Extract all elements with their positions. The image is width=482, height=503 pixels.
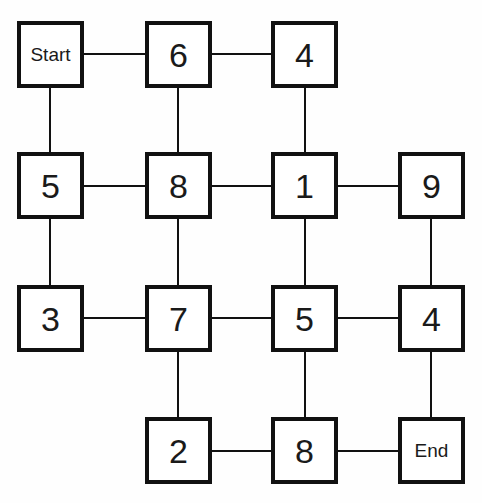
node-n-r2c1[interactable]: 5 <box>17 152 84 219</box>
node-n-r1c2[interactable]: 6 <box>145 21 212 88</box>
node-n-r2c2[interactable]: 8 <box>145 152 212 219</box>
node-label: 2 <box>169 434 188 468</box>
node-label: 6 <box>169 38 188 72</box>
node-label: 1 <box>295 169 314 203</box>
node-n-r3c4[interactable]: 4 <box>398 285 465 352</box>
grid-path-diagram: Start645819375428End <box>0 0 482 503</box>
node-label: 7 <box>169 302 188 336</box>
node-n-r4c4[interactable]: End <box>398 417 465 484</box>
node-n-r4c3[interactable]: 8 <box>271 417 338 484</box>
node-label: 5 <box>295 302 314 336</box>
node-n-r4c2[interactable]: 2 <box>145 417 212 484</box>
node-label: 5 <box>41 169 60 203</box>
node-label: Start <box>30 45 70 64</box>
node-n-r3c2[interactable]: 7 <box>145 285 212 352</box>
node-label: 3 <box>41 302 60 336</box>
node-label: 9 <box>422 169 441 203</box>
node-label: 8 <box>295 434 314 468</box>
node-n-r3c1[interactable]: 3 <box>17 285 84 352</box>
node-n-r1c1[interactable]: Start <box>17 21 84 88</box>
node-label: 4 <box>295 38 314 72</box>
node-n-r3c3[interactable]: 5 <box>271 285 338 352</box>
node-n-r2c4[interactable]: 9 <box>398 152 465 219</box>
node-label: 8 <box>169 169 188 203</box>
node-label: End <box>415 441 449 460</box>
node-n-r2c3[interactable]: 1 <box>271 152 338 219</box>
node-n-r1c3[interactable]: 4 <box>271 21 338 88</box>
node-label: 4 <box>422 302 441 336</box>
